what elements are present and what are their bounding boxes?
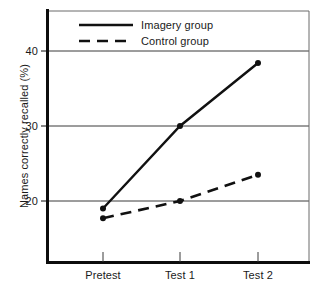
- x-tick-label-test-2: Test 2: [218, 269, 298, 281]
- x-tick-label-test-1: Test 1: [140, 269, 220, 281]
- legend-label-control-group: Control group: [141, 35, 209, 47]
- chart-figure: Names correctly recalled (%) 20 30 40 Pr…: [0, 0, 328, 293]
- y-tick-label-20: 20: [10, 195, 38, 207]
- x-tick-label-pretest: Pretest: [63, 269, 143, 281]
- data-point-imagery-group-test-2: [255, 60, 261, 66]
- data-point-control-group-test-1: [177, 198, 183, 204]
- plot-area-background: [47, 11, 309, 263]
- data-point-control-group-test-2: [255, 172, 261, 178]
- data-point-imagery-group-test-1: [177, 123, 183, 129]
- y-tick-label-40: 40: [10, 45, 38, 57]
- legend-label-imagery-group: Imagery group: [141, 19, 213, 31]
- data-point-imagery-group-pretest: [100, 206, 106, 212]
- y-tick-label-30: 30: [10, 120, 38, 132]
- data-point-control-group-pretest: [100, 215, 106, 221]
